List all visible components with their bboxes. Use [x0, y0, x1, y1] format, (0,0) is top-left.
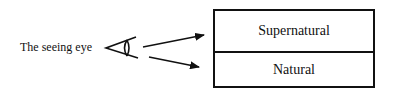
supernatural-cell: Supernatural — [215, 11, 373, 53]
realm-box: Supernatural Natural — [213, 9, 375, 88]
arrow-to-natural — [149, 57, 199, 67]
arrow-to-supernatural — [143, 35, 204, 47]
natural-label: Natural — [273, 62, 315, 78]
eye-icon — [106, 37, 138, 58]
supernatural-label: Supernatural — [258, 23, 330, 39]
natural-cell: Natural — [215, 53, 373, 86]
